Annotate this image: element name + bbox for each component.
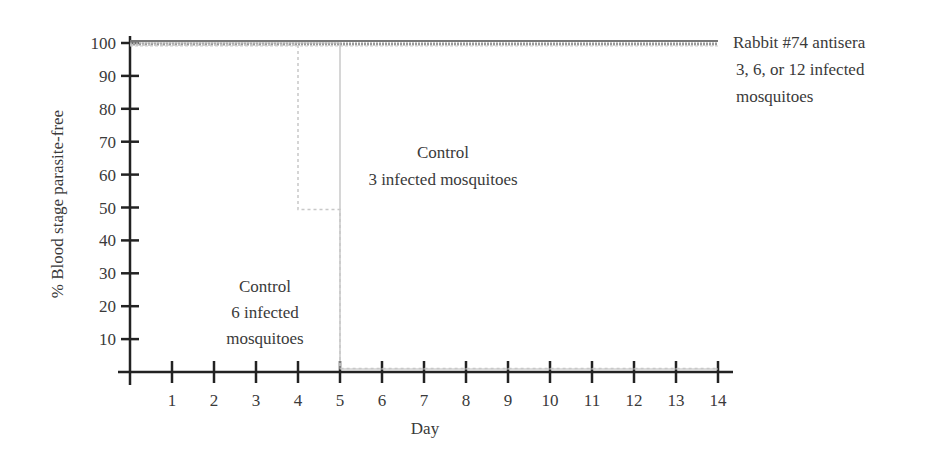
- y-tick-label: 50: [99, 199, 116, 218]
- x-tick-label: 9: [504, 391, 513, 410]
- x-tick-label: 13: [668, 391, 685, 410]
- x-tick-label: 8: [462, 391, 471, 410]
- annotation-control6-line1: Control: [239, 277, 291, 296]
- series-lines: [130, 41, 718, 369]
- y-axis-ticks: 102030405060708090100: [91, 34, 140, 349]
- x-tick-label: 5: [336, 391, 345, 410]
- annotation-rabbit-line1: Rabbit #74 antisera: [733, 33, 866, 52]
- annotation-control6-line3: mosquitoes: [226, 329, 303, 348]
- y-tick-label: 70: [99, 133, 116, 152]
- annotation-control3-line1: Control: [417, 143, 469, 162]
- x-tick-label: 11: [584, 391, 600, 410]
- x-tick-label: 10: [542, 391, 559, 410]
- x-tick-label: 12: [626, 391, 643, 410]
- x-tick-label: 1: [168, 391, 177, 410]
- annotation-control6-line2: 6 infected: [231, 303, 299, 322]
- y-tick-label: 80: [99, 100, 116, 119]
- x-tick-label: 14: [710, 391, 728, 410]
- y-tick-label: 20: [99, 297, 116, 316]
- x-axis-title: Day: [411, 419, 440, 438]
- series-line-control-6-mosquitoes: [130, 45, 718, 368]
- annotation-control3-line2: 3 infected mosquitoes: [368, 170, 517, 189]
- y-tick-label: 90: [99, 67, 116, 86]
- y-tick-label: 60: [99, 166, 116, 185]
- x-tick-label: 6: [378, 391, 387, 410]
- annotation-rabbit-line3: mosquitoes: [736, 87, 813, 106]
- y-tick-label: 100: [91, 34, 117, 53]
- annotation-rabbit-line2: 3, 6, or 12 infected: [736, 60, 865, 79]
- y-tick-label: 10: [99, 330, 116, 349]
- chart: 102030405060708090100 123456789101112131…: [0, 0, 942, 459]
- x-tick-label: 2: [210, 391, 219, 410]
- y-axis-title: % Blood stage parasite-free: [48, 110, 67, 298]
- y-tick-label: 30: [99, 264, 116, 283]
- series-line-control-3-mosquitoes: [130, 43, 718, 369]
- x-tick-label: 3: [252, 391, 261, 410]
- y-tick-label: 40: [99, 231, 116, 250]
- x-tick-label: 7: [420, 391, 429, 410]
- x-tick-label: 4: [294, 391, 303, 410]
